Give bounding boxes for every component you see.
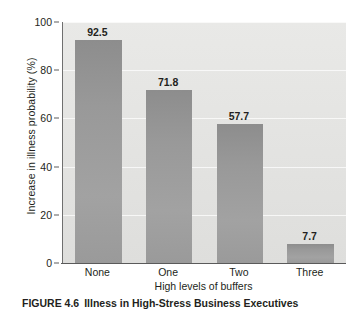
figure-caption-text: Illness in High-Stress Business Executiv…	[84, 297, 298, 309]
bar	[217, 124, 263, 263]
y-tick-mark	[54, 214, 59, 215]
y-tick-label: 80	[10, 64, 52, 76]
y-tick-label: 20	[10, 209, 52, 221]
y-tick-mark	[54, 166, 59, 167]
bar	[287, 244, 333, 263]
gridline	[63, 22, 346, 23]
bar-value-label: 92.5	[74, 26, 120, 38]
bar-value-label: 7.7	[286, 230, 332, 242]
figure-number: FIGURE 4.6	[22, 297, 79, 309]
y-tick-mark	[54, 118, 59, 119]
figure-caption: FIGURE 4.6Illness in High-Stress Busines…	[22, 297, 342, 309]
x-tick-label: None	[62, 266, 133, 278]
x-tick-label: Three	[274, 266, 345, 278]
x-axis-line	[61, 263, 346, 264]
x-tick-label: Two	[204, 266, 275, 278]
x-axis-title: High levels of buffers	[62, 280, 345, 292]
y-tick-label: 40	[10, 161, 52, 173]
y-tick-mark	[54, 70, 59, 71]
y-tick-mark	[54, 263, 59, 264]
y-tick-label: 100	[10, 16, 52, 28]
bar-value-label: 57.7	[216, 110, 262, 122]
bar	[75, 40, 121, 263]
x-tick-label: One	[133, 266, 204, 278]
y-tick-label: 0	[10, 257, 52, 269]
plot-area	[62, 22, 346, 263]
bar	[146, 90, 192, 263]
y-tick-label: 60	[10, 112, 52, 124]
y-axis-ticks: 020406080100	[0, 0, 62, 308]
bar-value-label: 71.8	[145, 76, 191, 88]
y-tick-mark	[54, 22, 59, 23]
